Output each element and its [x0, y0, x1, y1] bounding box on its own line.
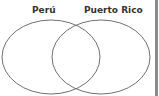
set-puerto-rico-ellipse [52, 20, 150, 94]
set-label-puerto-rico: Puerto Rico [84, 5, 143, 15]
right-edge-bar [155, 0, 158, 96]
set-peru-ellipse [2, 20, 100, 94]
set-label-peru: Perú [32, 5, 56, 15]
